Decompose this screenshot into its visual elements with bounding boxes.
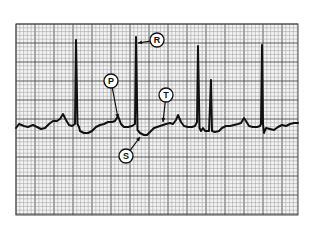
label-text: S xyxy=(123,151,129,161)
ecg-figure: RPTS xyxy=(0,0,318,231)
label-text: T xyxy=(163,90,169,100)
label-text: P xyxy=(108,76,114,86)
label-text: R xyxy=(154,35,161,45)
